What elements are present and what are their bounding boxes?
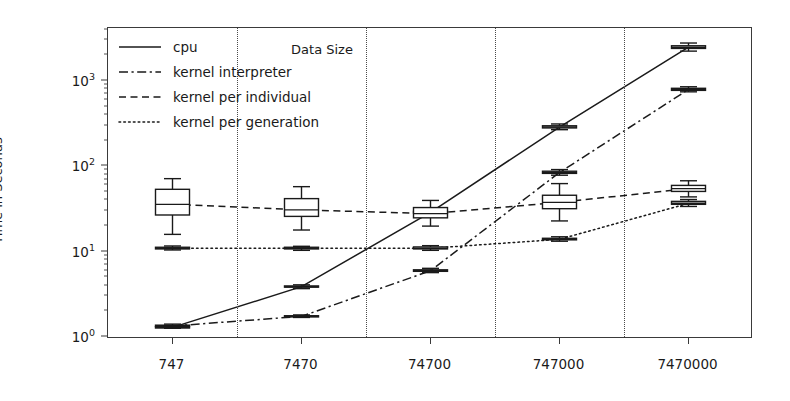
boxplot-kernel-per-individual-747	[156, 179, 190, 235]
x-tick-label-747000: 747000	[533, 356, 585, 372]
legend-line-sample	[118, 41, 162, 53]
boxplot-kernel-per-generation-74700	[414, 246, 448, 251]
box	[285, 199, 319, 217]
boxplot-kernel-interpreter-74700	[414, 268, 448, 272]
x-tick-mark	[688, 338, 689, 344]
boxplot-kernel-interpreter-747000	[543, 170, 577, 176]
y-tick-exponent: 0	[89, 327, 95, 338]
y-axis: 100101102103	[0, 27, 107, 338]
x-tick-mark	[430, 338, 431, 344]
y-tick-label: 103	[72, 72, 95, 88]
legend-line-sample	[118, 66, 162, 78]
y-tick-exponent: 3	[89, 71, 95, 82]
legend-line-sample	[118, 116, 162, 128]
box	[414, 208, 448, 218]
boxplot-kernel-per-individual-7470000	[672, 181, 706, 197]
category-divider	[624, 28, 625, 337]
boxplot-cpu-7470	[285, 285, 319, 289]
legend-entry-kernel-interpreter: kernel interpreter	[118, 59, 348, 84]
boxplot-kernel-interpreter-7470	[285, 315, 319, 318]
boxplot-kernel-per-generation-747	[156, 246, 190, 250]
legend-line-sample	[118, 91, 162, 103]
boxplot-kernel-interpreter-747	[156, 324, 190, 327]
boxplot-kernel-per-individual-747000	[543, 184, 577, 221]
y-tick-base: 10	[72, 243, 89, 259]
legend-entry-kernel-per-individual: kernel per individual	[118, 84, 348, 109]
box	[156, 189, 190, 215]
boxplot-kernel-per-individual-7470	[285, 187, 319, 230]
figure: 100101102103 Time in Seconds 74774707470…	[0, 0, 790, 401]
legend-entry-kernel-per-generation: kernel per generation	[118, 109, 348, 134]
boxplot-kernel-per-generation-7470	[285, 246, 319, 250]
y-tick-exponent: 1	[89, 242, 95, 253]
legend-label: kernel per generation	[173, 114, 319, 130]
category-divider	[366, 28, 367, 337]
legend-label: kernel per individual	[173, 89, 311, 105]
y-tick-label: 100	[72, 328, 95, 344]
chart-legend: cpukernel interpreterkernel per individu…	[118, 34, 348, 134]
boxplot-cpu-7470000	[672, 43, 706, 51]
boxplot-kernel-per-generation-747000	[543, 237, 577, 241]
x-tick-label-7470000: 7470000	[657, 356, 717, 372]
boxplot-cpu-747000	[543, 124, 577, 130]
y-tick-base: 10	[72, 158, 89, 174]
x-tick-label-747: 747	[159, 356, 185, 372]
y-tick-label: 102	[72, 157, 95, 173]
y-tick-label: 101	[72, 243, 95, 259]
y-tick-base: 10	[72, 329, 89, 345]
legend-label: kernel interpreter	[173, 64, 292, 80]
x-tick-label-74700: 74700	[408, 356, 451, 372]
x-tick-mark	[301, 338, 302, 344]
legend-entry-cpu: cpu	[118, 34, 348, 59]
boxplot-kernel-interpreter-7470000	[672, 87, 706, 92]
y-tick-base: 10	[72, 73, 89, 89]
legend-label: cpu	[173, 39, 198, 55]
y-axis-label: Time in Seconds	[0, 137, 5, 244]
x-tick-label-7470: 7470	[283, 356, 317, 372]
x-axis: 7477470747007470007470000	[107, 338, 752, 401]
boxplot-kernel-per-generation-7470000	[672, 200, 706, 207]
y-tick-exponent: 2	[89, 156, 95, 167]
x-tick-mark	[172, 338, 173, 344]
category-divider	[495, 28, 496, 337]
x-tick-mark	[559, 338, 560, 344]
